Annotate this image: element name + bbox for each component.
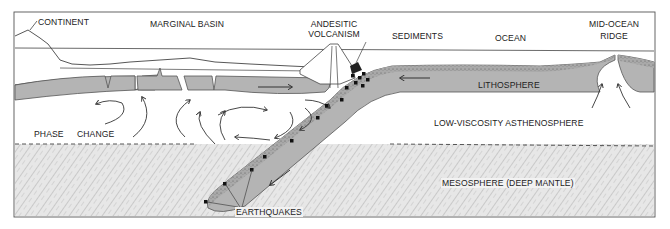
- label-mid-ocean: MID-OCEAN: [580, 19, 648, 29]
- label-phase: PHASE: [34, 129, 64, 139]
- label-sediments: SEDIMENTS: [392, 31, 443, 41]
- label-change: CHANGE: [77, 129, 114, 139]
- subduction-diagram: CONTINENT MARGINAL BASIN ANDESITIC VOLCA…: [0, 0, 670, 229]
- label-continent: CONTINENT: [38, 17, 89, 27]
- label-ridge: RIDGE: [580, 31, 648, 41]
- label-earthquakes: EARTHQUAKES: [235, 207, 303, 217]
- label-marginal-basin: MARGINAL BASIN: [150, 19, 224, 29]
- label-mesosphere: MESOSPHERE (DEEP MANTLE): [441, 178, 575, 188]
- label-andesitic: ANDESITIC: [308, 19, 360, 29]
- continental-plate-segment-3: [184, 76, 214, 90]
- label-ocean: OCEAN: [495, 33, 526, 43]
- label-volcanism: VOLCANISM: [308, 29, 360, 39]
- label-asthenosphere: LOW-VISCOSITY ASTHENOSPHERE: [434, 118, 583, 128]
- label-lithosphere: LITHOSPHERE: [478, 80, 540, 90]
